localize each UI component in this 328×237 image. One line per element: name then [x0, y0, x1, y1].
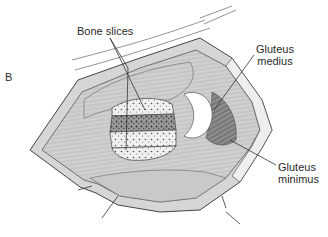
label-gluteus-minimus-line2: minimus	[278, 173, 319, 185]
label-gluteus-minimus: Gluteus minimus	[278, 161, 319, 185]
panel-letter: B	[5, 71, 12, 83]
label-gluteus-medius-line2: medius	[256, 55, 294, 67]
label-gluteus-medius: Gluteus medius	[256, 43, 294, 67]
label-gluteus-medius-line1: Gluteus	[256, 43, 294, 55]
surgical-illustration	[0, 0, 328, 237]
label-gluteus-minimus-line1: Gluteus	[278, 161, 319, 173]
label-bone-slices: Bone slices	[77, 25, 133, 37]
bone-slices	[110, 98, 176, 160]
